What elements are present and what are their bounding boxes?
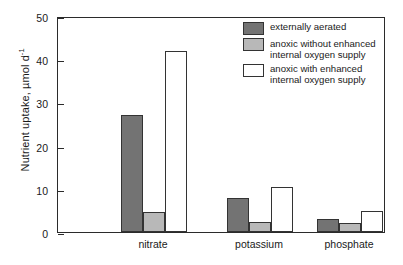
bar xyxy=(143,212,165,232)
bar xyxy=(361,211,383,232)
y-axis-tick-label: 0 xyxy=(42,228,48,240)
bar xyxy=(339,223,361,232)
legend-label: anoxic without enhanced internal oxygen … xyxy=(270,38,376,60)
legend-item: externally aerated xyxy=(243,21,376,35)
legend: externally aeratedanoxic without enhance… xyxy=(243,21,376,89)
y-axis-tick xyxy=(58,148,64,149)
y-axis-tick xyxy=(58,234,64,235)
legend-swatch xyxy=(243,22,264,35)
legend-item: anoxic without enhanced internal oxygen … xyxy=(243,38,376,60)
y-axis-title: Nutrient uptake, µmol d-1 xyxy=(17,20,31,200)
legend-swatch xyxy=(243,38,264,51)
figure: Nutrient uptake, µmol d-1 01020304050 ni… xyxy=(0,0,403,265)
bar xyxy=(271,187,293,232)
bar xyxy=(317,219,339,232)
y-axis-tick xyxy=(58,191,64,192)
x-axis-tick-label: phosphate xyxy=(324,238,373,250)
y-axis-tick-label: 10 xyxy=(36,185,48,197)
y-axis-tick-label: 50 xyxy=(36,12,48,24)
bar xyxy=(121,115,143,232)
y-axis-tick-label: 30 xyxy=(36,98,48,110)
y-axis-tick xyxy=(58,104,64,105)
legend-item: anoxic with enhanced internal oxygen sup… xyxy=(243,63,376,85)
bar xyxy=(249,222,271,232)
bar-group xyxy=(121,18,188,232)
y-axis-title-text: Nutrient uptake, µmol d xyxy=(19,55,31,171)
bar xyxy=(165,51,187,232)
y-axis-tick-label: 40 xyxy=(36,55,48,67)
legend-swatch xyxy=(243,64,264,77)
x-axis-tick-label: nitrate xyxy=(138,238,167,250)
legend-label: anoxic with enhanced internal oxygen sup… xyxy=(270,63,365,85)
y-axis-title-exponent: -1 xyxy=(17,48,26,55)
legend-label: externally aerated xyxy=(270,21,346,32)
y-axis-tick xyxy=(58,61,64,62)
y-axis-tick-label: 20 xyxy=(36,142,48,154)
y-axis-tick xyxy=(58,18,64,19)
x-axis-tick-label: potassium xyxy=(235,238,283,250)
bar xyxy=(227,198,249,232)
